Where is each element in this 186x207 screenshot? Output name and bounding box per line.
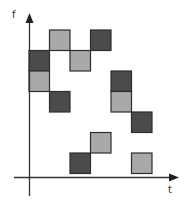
x-axis-arrow-icon: [169, 174, 179, 182]
block-dark: [91, 30, 112, 51]
block-light: [111, 92, 132, 113]
block-dark: [50, 92, 71, 113]
block-dark: [70, 153, 91, 174]
block-light: [29, 71, 50, 92]
y-axis-label: f: [12, 9, 16, 20]
block-light: [70, 51, 91, 72]
block-light: [50, 30, 71, 51]
block-grid: [29, 30, 152, 174]
block-light: [91, 133, 112, 154]
block-dark: [132, 112, 153, 133]
x-axis-label: t: [168, 184, 172, 195]
block-light: [132, 153, 153, 174]
block-dark: [29, 51, 50, 72]
time-frequency-diagram: [0, 0, 186, 207]
y-axis-arrow-icon: [26, 13, 34, 23]
block-dark: [111, 71, 132, 92]
